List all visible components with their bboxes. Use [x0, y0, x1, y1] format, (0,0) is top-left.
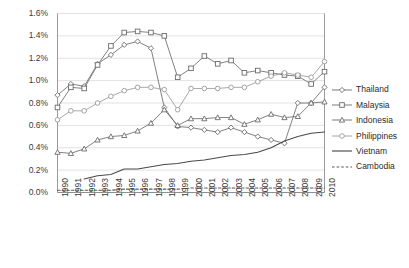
x-tick-label: 1993	[101, 178, 110, 197]
square-marker-icon	[331, 99, 353, 111]
dashed-line-icon	[331, 161, 353, 173]
triangle-marker-icon	[331, 114, 353, 126]
x-tick-label: 1991	[74, 178, 83, 197]
legend-item-philippines[interactable]: Philippines	[331, 128, 397, 143]
legend-item-vietnam[interactable]: Vietnam	[331, 144, 397, 159]
x-tick-label: 1990	[61, 178, 70, 197]
series-malaysia	[55, 29, 327, 110]
x-tick-label: 1998	[168, 178, 177, 197]
x-tick-label: 2010	[328, 178, 337, 197]
x-tick-label: 2007	[288, 178, 297, 197]
legend-item-cambodia[interactable]: Cambodia	[331, 159, 397, 174]
y-tick-label: 0.6%	[8, 121, 48, 130]
y-tick-label: 1.4%	[8, 31, 48, 40]
x-tick-label: 1997	[155, 178, 164, 197]
x-tick-label: 1992	[88, 178, 97, 197]
y-tick-label: 0.2%	[8, 166, 48, 175]
y-tick-label: 0.4%	[8, 143, 48, 152]
y-tick-label: 1.2%	[8, 54, 48, 63]
x-tick-label: 2001	[208, 178, 217, 197]
circle-marker-icon	[331, 130, 353, 142]
legend-item-label: Malaysia	[356, 101, 390, 110]
legend-item-label: Thailand	[356, 85, 389, 94]
x-tick-label: 1994	[115, 178, 124, 197]
x-tick-label: 2004	[248, 178, 257, 197]
series-vietnam	[84, 132, 324, 179]
x-tick-label: 2002	[221, 178, 230, 197]
legend-item-label: Indonesia	[356, 116, 393, 125]
x-tick-label: 2008	[301, 178, 310, 197]
y-tick-label: 1.0%	[8, 76, 48, 85]
legend-item-thailand[interactable]: Thailand	[331, 82, 397, 97]
x-tick-label: 2003	[235, 178, 244, 197]
legend-item-label: Philippines	[356, 132, 397, 141]
x-tick-label: 2009	[315, 178, 324, 197]
series-layer	[55, 29, 327, 190]
solid-line-icon	[331, 145, 353, 157]
diamond-marker-icon	[331, 84, 353, 96]
line-chart: 0.0%0.2%0.4%0.6%0.8%1.0%1.2%1.4%1.6% 199…	[0, 0, 409, 268]
legend-item-label: Cambodia	[356, 162, 395, 171]
series-cambodia	[58, 188, 325, 190]
x-tick-label: 2000	[195, 178, 204, 197]
x-tick-label: 1996	[141, 178, 150, 197]
legend-item-label: Vietnam	[356, 147, 387, 156]
y-tick-label: 0.8%	[8, 99, 48, 108]
x-tick-label: 1995	[128, 178, 137, 197]
x-tick-label: 2005	[261, 178, 270, 197]
x-tick-label: 2006	[275, 178, 284, 197]
y-tick-label: 1.6%	[8, 9, 48, 18]
legend-item-malaysia[interactable]: Malaysia	[331, 97, 397, 112]
chart-legend: ThailandMalaysiaIndonesiaPhilippinesViet…	[331, 82, 397, 174]
series-thailand	[55, 39, 327, 146]
legend-item-indonesia[interactable]: Indonesia	[331, 113, 397, 128]
y-tick-label: 0.0%	[8, 188, 48, 197]
x-tick-label: 1999	[181, 178, 190, 197]
